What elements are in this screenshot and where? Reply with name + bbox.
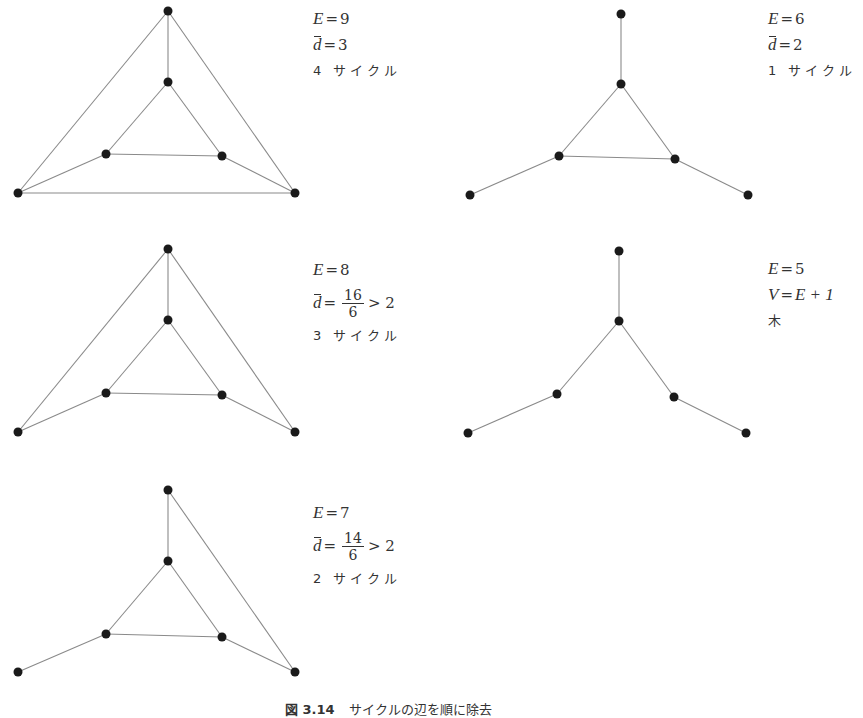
denominator: 6 bbox=[349, 304, 358, 320]
graph-vertex bbox=[164, 557, 173, 566]
figure-number: 図 3.14 bbox=[285, 702, 335, 717]
graph-edge bbox=[18, 154, 106, 193]
var-d-bar: d bbox=[768, 34, 777, 56]
edge-count-line: E=9 bbox=[313, 6, 401, 32]
graph-edge bbox=[106, 82, 168, 154]
var-v: V bbox=[768, 284, 778, 306]
graph-edge bbox=[106, 561, 168, 634]
graph-edge bbox=[106, 154, 222, 156]
graph-vertex bbox=[555, 152, 564, 161]
label-graph-e6: E=6 d=2 1 サイクル bbox=[768, 6, 856, 84]
edge-count-line: E=8 bbox=[313, 257, 401, 283]
avg-degree-line: d=3 bbox=[313, 32, 401, 58]
var-d-bar: d bbox=[313, 292, 322, 314]
var-e: E bbox=[313, 8, 323, 30]
graph-vertex bbox=[553, 390, 562, 399]
graph-edge bbox=[106, 634, 222, 637]
cycle-count-line: 2 サイクル bbox=[313, 566, 401, 592]
graph-edge bbox=[168, 320, 222, 395]
edge-count-line: E=6 bbox=[768, 6, 856, 32]
graph-edge bbox=[468, 394, 557, 433]
comparison: > 2 bbox=[368, 535, 395, 557]
equals-sign: = bbox=[324, 34, 337, 56]
graph-edge bbox=[168, 490, 295, 672]
edge-count-value: 9 bbox=[340, 8, 350, 30]
equals-sign: = bbox=[324, 292, 337, 314]
graph-edge bbox=[675, 159, 748, 195]
graph-edge bbox=[168, 249, 295, 432]
figure-caption: 図 3.14サイクルの辺を順に除去 bbox=[285, 699, 492, 718]
avg-degree-value: 3 bbox=[338, 34, 348, 56]
avg-degree-line: d= 166 > 2 bbox=[313, 283, 401, 323]
edge-count-value: 6 bbox=[795, 8, 805, 30]
cycle-count-line: 1 サイクル bbox=[768, 58, 856, 84]
graph-vertex bbox=[14, 668, 23, 677]
graph-edge bbox=[470, 156, 559, 195]
label-graph-e7: E=7 d= 146 > 2 2 サイクル bbox=[313, 500, 401, 592]
graph-edge bbox=[168, 561, 222, 637]
graph-vertex bbox=[218, 391, 227, 400]
graph-vertex bbox=[102, 389, 111, 398]
graph-vertex bbox=[615, 317, 624, 326]
graph-edge bbox=[557, 321, 619, 394]
avg-degree-value: 2 bbox=[793, 34, 803, 56]
graph-vertex bbox=[164, 245, 173, 254]
var-d-bar: d bbox=[313, 34, 322, 56]
edge-count-line: E=5 bbox=[768, 256, 834, 282]
graph-edge bbox=[619, 321, 674, 397]
cycle-count-line: 4 サイクル bbox=[313, 58, 401, 84]
graph-vertex bbox=[742, 429, 751, 438]
graph-edge bbox=[222, 156, 295, 193]
graph-vertex bbox=[617, 80, 626, 89]
graph-vertex bbox=[464, 429, 473, 438]
cycle-count-line: 3 サイクル bbox=[313, 323, 401, 349]
graph-edge bbox=[674, 397, 746, 433]
graph-edge bbox=[18, 393, 106, 432]
graph-vertex bbox=[466, 191, 475, 200]
var-e: E bbox=[768, 258, 778, 280]
graph-vertex bbox=[218, 633, 227, 642]
graph-vertex bbox=[671, 155, 680, 164]
graph-edge bbox=[18, 11, 168, 193]
graph-edge bbox=[559, 84, 621, 156]
graph-vertex bbox=[164, 78, 173, 87]
vertex-relation-line: V=E + 1 bbox=[768, 282, 834, 308]
graph-vertex bbox=[291, 428, 300, 437]
equals-sign: = bbox=[325, 259, 338, 281]
graph-edge bbox=[222, 395, 295, 432]
graph-vertex bbox=[164, 7, 173, 16]
graph-edge bbox=[168, 11, 295, 193]
avg-degree-line: d=2 bbox=[768, 32, 856, 58]
graph-vertex bbox=[291, 189, 300, 198]
denominator: 6 bbox=[349, 547, 358, 563]
fraction: 166 bbox=[342, 287, 364, 320]
edge-count-line: E=7 bbox=[313, 500, 401, 526]
graph-edge bbox=[168, 82, 222, 156]
graph-e7 bbox=[14, 486, 300, 677]
graph-edge bbox=[621, 84, 675, 159]
graph-vertex bbox=[164, 316, 173, 325]
graph-e8 bbox=[14, 245, 300, 437]
caption-text: サイクルの辺を順に除去 bbox=[349, 702, 492, 717]
graph-vertex bbox=[744, 191, 753, 200]
label-graph-e5: E=5 V=E + 1 木 bbox=[768, 256, 834, 334]
graph-vertex bbox=[164, 486, 173, 495]
var-e: E bbox=[313, 502, 323, 524]
edge-count-value: 8 bbox=[340, 259, 350, 281]
label-graph-e9: E=9 d=3 4 サイクル bbox=[313, 6, 401, 84]
graph-vertex bbox=[14, 189, 23, 198]
equals-sign: = bbox=[324, 535, 337, 557]
graph-vertex bbox=[670, 393, 679, 402]
vertex-relation-value: E + 1 bbox=[795, 284, 834, 306]
graph-edge bbox=[106, 320, 168, 393]
graph-vertex bbox=[102, 630, 111, 639]
graph-e6 bbox=[466, 10, 753, 200]
avg-degree-line: d= 146 > 2 bbox=[313, 526, 401, 566]
numerator: 14 bbox=[342, 530, 364, 547]
numerator: 16 bbox=[342, 287, 364, 304]
edge-count-value: 5 bbox=[795, 258, 805, 280]
graph-edge bbox=[559, 156, 675, 159]
graph-vertex bbox=[102, 150, 111, 159]
label-graph-e8: E=8 d= 166 > 2 3 サイクル bbox=[313, 257, 401, 349]
graph-vertex bbox=[615, 247, 624, 256]
